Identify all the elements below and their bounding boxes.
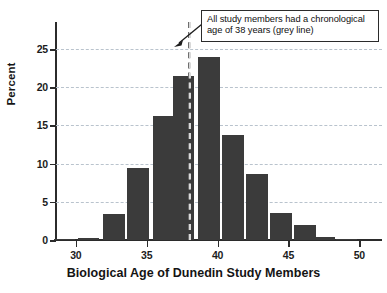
histogram-chart: Percent All study members had a chronolo… xyxy=(0,0,387,293)
y-tick-mark-10 xyxy=(50,164,56,166)
y-tick-label-15: 15 xyxy=(22,119,48,131)
x-axis-title: Biological Age of Dunedin Study Members xyxy=(0,266,387,280)
y-tick-mark-15 xyxy=(50,125,56,127)
histogram-bar xyxy=(313,237,335,240)
y-tick-mark-25 xyxy=(50,49,56,51)
y-tick-mark-0 xyxy=(50,240,56,242)
x-tick-mark-35 xyxy=(147,241,149,247)
x-tick-label-50: 50 xyxy=(344,249,374,261)
y-tick-label-10: 10 xyxy=(22,158,48,170)
x-tick-label-35: 35 xyxy=(132,249,162,261)
histogram-bar xyxy=(246,174,268,240)
histogram-bar xyxy=(78,238,100,240)
annotation-line-2: age of 38 years (grey line) xyxy=(207,25,373,36)
x-tick-mark-30 xyxy=(76,241,78,247)
x-tick-label-40: 40 xyxy=(203,249,233,261)
histogram-bar xyxy=(198,57,220,240)
gridline-y-25 xyxy=(56,49,382,50)
reference-line-age-38 xyxy=(189,22,191,240)
x-tick-label-30: 30 xyxy=(61,249,91,261)
histogram-bar xyxy=(127,168,149,240)
histogram-bar xyxy=(270,213,292,240)
y-tick-mark-20 xyxy=(50,87,56,89)
histogram-bar xyxy=(54,239,76,241)
histogram-bar xyxy=(153,116,175,240)
y-tick-label-5: 5 xyxy=(22,196,48,208)
annotation-callout: All study members had a chronological ag… xyxy=(201,10,379,42)
plot-area xyxy=(56,30,382,240)
histogram-bar xyxy=(222,135,244,240)
x-tick-mark-50 xyxy=(359,241,361,247)
y-tick-label-0: 0 xyxy=(22,234,48,246)
annotation-line-1: All study members had a chronological xyxy=(207,14,373,25)
y-tick-label-20: 20 xyxy=(22,81,48,93)
histogram-bar xyxy=(103,214,125,240)
x-tick-label-45: 45 xyxy=(273,249,303,261)
x-tick-mark-45 xyxy=(288,241,290,247)
y-tick-mark-5 xyxy=(50,202,56,204)
x-tick-mark-40 xyxy=(218,241,220,247)
histogram-bar xyxy=(336,239,358,241)
y-axis-title: Percent xyxy=(5,39,17,129)
y-tick-label-25: 25 xyxy=(22,43,48,55)
